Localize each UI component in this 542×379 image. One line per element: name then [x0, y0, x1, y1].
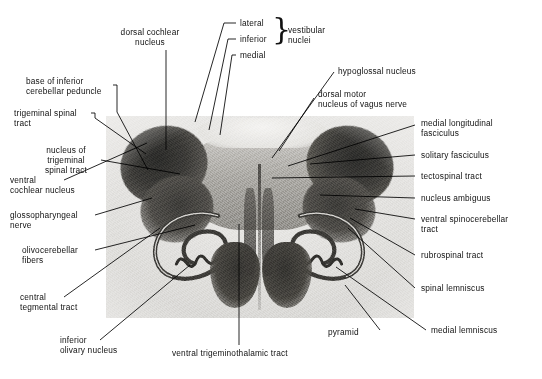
label-solitary-fasciculus: solitary fasciculus	[421, 150, 489, 160]
label-ventral-spinocerebellar-tract: ventral spinocerebellar tract	[421, 214, 508, 234]
label-pyramid: pyramid	[328, 327, 359, 337]
label-inferior-vestibular-nucleus: inferior	[240, 34, 267, 44]
label-glossopharyngeal-nerve: glossopharyngeal nerve	[10, 210, 78, 230]
medulla-cross-section-image	[106, 116, 414, 318]
label-spinal-lemniscus: spinal lemniscus	[421, 283, 485, 293]
label-nucleus-of-trigeminal-spinal-tract: nucleus of trigeminal spinal tract	[32, 145, 100, 176]
label-medial-vestibular-nucleus: medial	[240, 50, 265, 60]
label-tectospinal-tract: tectospinal tract	[421, 171, 482, 181]
label-ventral-trigeminothalamic-tract: ventral trigeminothalamic tract	[172, 348, 288, 358]
label-trigeminal-spinal-tract: trigeminal spinal tract	[14, 108, 77, 128]
label-olivocerebellar-fibers: olivocerebellar fibers	[22, 245, 78, 265]
label-dorsal-motor-nucleus-vagus: dorsal motor nucleus of vagus nerve	[318, 89, 407, 109]
leader-lateral-vestibular	[195, 23, 236, 122]
anatomy-figure: dorsal cochlear nucleus lateral inferior…	[0, 0, 542, 379]
label-vestibular-nuclei: vestibular nuclei	[288, 25, 325, 45]
left-medial-lemniscus	[244, 188, 256, 276]
label-nucleus-ambiguus: nucleus ambiguus	[421, 193, 491, 203]
label-medial-longitudinal-fasciculus: medial longitudinal fasciculus	[421, 118, 493, 138]
label-hypoglossal-nucleus: hypoglossal nucleus	[338, 66, 416, 76]
label-base-inferior-cerebellar-peduncle: base of inferior cerebellar peduncle	[26, 76, 102, 96]
label-dorsal-cochlear-nucleus: dorsal cochlear nucleus	[103, 27, 197, 47]
label-ventral-cochlear-nucleus: ventral cochlear nucleus	[10, 175, 75, 195]
label-inferior-olivary-nucleus: inferior olivary nucleus	[60, 335, 117, 355]
label-central-tegmental-tract: central tegmental tract	[20, 292, 77, 312]
median-raphe	[258, 164, 261, 310]
label-lateral-vestibular-nucleus: lateral	[240, 18, 264, 28]
label-medial-lemniscus: medial lemniscus	[431, 325, 497, 335]
fourth-ventricle-floor	[198, 118, 326, 148]
right-medial-lemniscus	[262, 188, 274, 276]
label-rubrospinal-tract: rubrospinal tract	[421, 250, 483, 260]
